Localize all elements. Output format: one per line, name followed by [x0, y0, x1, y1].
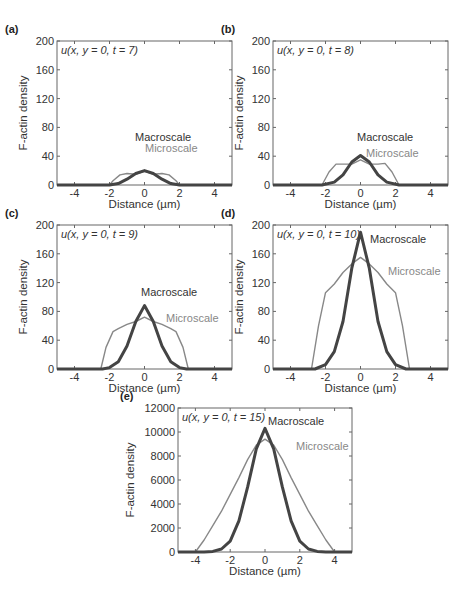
panel-label: (c) — [5, 207, 19, 219]
x-axis-label: Distance (µm) — [229, 565, 301, 577]
x-tick-label: 4 — [211, 371, 217, 383]
y-axis-label: F-actin density — [233, 75, 245, 150]
x-tick-label: 4 — [332, 554, 338, 566]
panel-label: (e) — [120, 390, 134, 402]
y-tick-label: 6000 — [151, 474, 175, 486]
x-tick-label: 4 — [427, 187, 433, 199]
y-tick-label: 80 — [42, 305, 54, 317]
microscale-line — [57, 317, 232, 369]
y-tick-label: 10000 — [144, 426, 175, 438]
y-tick-label: 4000 — [151, 498, 175, 510]
y-tick-label: 40 — [42, 150, 54, 162]
macroscale-label: Macroscale — [141, 286, 197, 298]
annotation: u(x, y = 0, t = 8) — [277, 44, 354, 56]
y-axis-label: F-actin density — [17, 75, 29, 150]
microscale-label: Microscale — [366, 147, 419, 159]
x-axis-label: Distance (µm) — [325, 382, 397, 394]
microscale-line — [273, 160, 448, 185]
y-tick-label: 200 — [36, 35, 54, 47]
x-tick-label: -4 — [286, 187, 296, 199]
y-tick-label: 200 — [252, 219, 270, 231]
annotation: u(x, y = 0, t = 15) — [182, 411, 265, 423]
y-tick-label: 0 — [48, 179, 54, 191]
y-tick-label: 160 — [36, 248, 54, 260]
y-tick-label: 0 — [264, 179, 270, 191]
microscale-label: Microscale — [296, 440, 349, 452]
y-tick-label: 40 — [258, 334, 270, 346]
panel-label: (b) — [221, 23, 235, 35]
y-axis-label: F-actin density — [17, 259, 29, 334]
x-tick-label: 4 — [427, 371, 433, 383]
plot-frame — [273, 41, 448, 185]
microscale-label: Microscale — [388, 265, 441, 277]
x-tick-label: -4 — [286, 371, 296, 383]
microscale-line — [178, 439, 352, 552]
y-tick-label: 40 — [42, 334, 54, 346]
annotation: u(x, y = 0, t = 10) — [277, 228, 360, 240]
y-tick-label: 12000 — [144, 402, 175, 414]
y-tick-label: 0 — [48, 363, 54, 375]
macroscale-line — [273, 232, 448, 369]
macroscale-label: Macroscale — [268, 415, 324, 427]
microscale-label: Microscale — [145, 142, 198, 154]
macroscale-label: Macroscale — [370, 233, 426, 245]
y-tick-label: 120 — [252, 277, 270, 289]
y-tick-label: 2000 — [151, 522, 175, 534]
panel-label: (d) — [221, 207, 235, 219]
annotation: u(x, y = 0, t = 9) — [61, 228, 138, 240]
y-tick-label: 120 — [252, 93, 270, 105]
microscale-label: Microscale — [166, 312, 219, 324]
annotation: u(x, y = 0, t = 7) — [61, 44, 138, 56]
x-axis-label: Distance (µm) — [325, 198, 397, 210]
y-tick-label: 8000 — [151, 450, 175, 462]
y-tick-label: 80 — [42, 121, 54, 133]
x-axis-label: Distance (µm) — [109, 198, 181, 210]
x-tick-label: -4 — [70, 371, 80, 383]
y-axis-label: F-actin density — [124, 442, 136, 517]
panel-label: (a) — [5, 23, 19, 35]
y-tick-label: 200 — [252, 35, 270, 47]
y-tick-label: 160 — [36, 64, 54, 76]
y-tick-label: 160 — [252, 64, 270, 76]
y-tick-label: 0 — [169, 546, 175, 558]
y-tick-label: 120 — [36, 93, 54, 105]
y-tick-label: 200 — [36, 219, 54, 231]
y-tick-label: 0 — [264, 363, 270, 375]
y-axis-label: F-actin density — [233, 259, 245, 334]
x-tick-label: -4 — [70, 187, 80, 199]
x-tick-label: 4 — [211, 187, 217, 199]
y-tick-label: 160 — [252, 248, 270, 260]
x-tick-label: -4 — [191, 554, 201, 566]
y-tick-label: 40 — [258, 150, 270, 162]
y-tick-label: 80 — [258, 121, 270, 133]
plot-frame — [273, 225, 448, 369]
y-tick-label: 120 — [36, 277, 54, 289]
plot-frame — [57, 41, 232, 185]
macroscale-label: Macroscale — [357, 131, 413, 143]
y-tick-label: 80 — [258, 305, 270, 317]
figure: 04080120160200-4-2024F-actin densityDist… — [0, 0, 465, 591]
